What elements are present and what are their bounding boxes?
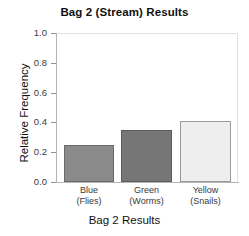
x-axis-title: Bag 2 Results (0, 214, 249, 226)
y-axis-line (56, 33, 57, 183)
bar-blue-flies[interactable] (64, 145, 114, 182)
x-category-label-blue: Blue (Flies) (64, 185, 114, 207)
x-category-label-yellow: Yellow (Snails) (180, 185, 231, 207)
y-tick-mark-0.8 (51, 63, 56, 64)
y-tick-mark-1.0 (51, 33, 56, 34)
x-axis-line (56, 182, 239, 183)
x-category-name-yellow: Yellow (193, 185, 219, 195)
x-category-sub-green: (Worms) (121, 196, 172, 207)
y-tick-mark-0.0 (51, 182, 56, 183)
y-tick-mark-0.2 (51, 152, 56, 153)
bar-chart: Bag 2 (Stream) Results 1.0 0.8 0.6 0.4 0… (0, 0, 249, 236)
y-axis-title: Relative Frequency (18, 33, 30, 193)
x-category-name-blue: Blue (80, 185, 98, 195)
bar-yellow-snails[interactable] (180, 121, 231, 182)
x-category-label-green: Green (Worms) (121, 185, 172, 207)
x-category-sub-yellow: (Snails) (180, 196, 231, 207)
y-tick-mark-0.6 (51, 93, 56, 94)
x-category-name-green: Green (134, 185, 159, 195)
bar-green-worms[interactable] (121, 130, 172, 182)
chart-title: Bag 2 (Stream) Results (0, 6, 249, 18)
x-category-sub-blue: (Flies) (64, 196, 114, 207)
y-tick-mark-0.4 (51, 122, 56, 123)
